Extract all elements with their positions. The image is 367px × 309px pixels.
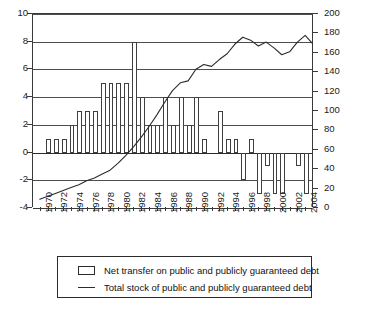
x-axis-label-1980: 1980 [122, 192, 132, 213]
chart-container: 1086420-2-4 200180160140120100806040200 … [0, 0, 367, 309]
right-tickmark-100 [313, 110, 318, 111]
legend-item-net-transfer: Net transfer on public and publicly guar… [58, 262, 311, 279]
x-axis-label-1972: 1972 [59, 192, 69, 213]
legend-item-total-stock: Total stock of public and publicly guara… [58, 279, 311, 296]
line-series [32, 13, 313, 207]
x-tickmark-1994 [227, 207, 228, 211]
x-tickmark-2000 [274, 207, 275, 211]
x-axis-label-1976: 1976 [91, 192, 101, 213]
right-tickmark-140 [313, 71, 318, 72]
right-tickmark-180 [313, 32, 318, 33]
right-tickmark-40 [313, 168, 318, 169]
right-axis-label-180: 180 [324, 27, 340, 37]
x-tickmark-1998 [258, 207, 259, 211]
x-axis-label-2004: 2004 [309, 192, 319, 213]
x-axis-label-1984: 1984 [153, 192, 163, 213]
x-tickmark-1974 [71, 207, 72, 211]
x-tickmark-1970 [40, 207, 41, 211]
legend-label-total-stock: Total stock of public and publicly guara… [104, 282, 312, 293]
right-tickmark-80 [313, 129, 318, 130]
x-tickmark-1982 [133, 207, 134, 211]
x-axis-label-2000: 2000 [278, 192, 288, 213]
left-axis-label-6: 6 [23, 63, 28, 73]
legend-line-marker-icon [78, 287, 95, 288]
x-axis-label-1998: 1998 [262, 192, 272, 213]
right-axis-label-20: 20 [324, 183, 335, 193]
left-axis-label-2: 2 [23, 119, 28, 129]
x-axis-label-1982: 1982 [137, 192, 147, 213]
x-tickmark-1976 [87, 207, 88, 211]
x-axis-label-1990: 1990 [200, 192, 210, 213]
left-axis-label-0: 0 [23, 147, 28, 157]
x-tickmark-2002 [290, 207, 291, 211]
x-tickmark-1990 [196, 207, 197, 211]
right-tickmark-120 [313, 91, 318, 92]
x-axis-label-1986: 1986 [169, 192, 179, 213]
right-tickmark-20 [313, 188, 318, 189]
left-axis-label-10: 10 [17, 8, 28, 18]
left-axis-label-8: 8 [23, 36, 28, 46]
x-tickmark-1986 [165, 207, 166, 211]
x-tickmark-1972 [55, 207, 56, 211]
x-axis-label-1994: 1994 [231, 192, 241, 213]
right-axis-label-60: 60 [324, 144, 335, 154]
x-axis-label-1988: 1988 [184, 192, 194, 213]
legend-label-net-transfer: Net transfer on public and publicly guar… [104, 265, 319, 276]
left-axis-label-4: 4 [23, 91, 28, 101]
chart-legend: Net transfer on public and publicly guar… [57, 256, 312, 298]
right-axis-label-100: 100 [324, 105, 340, 115]
x-tickmark-1996 [243, 207, 244, 211]
right-axis-label-120: 120 [324, 86, 340, 96]
x-tickmark-1980 [118, 207, 119, 211]
x-axis-label-1992: 1992 [216, 192, 226, 213]
right-tickmark-160 [313, 52, 318, 53]
x-tickmark-1984 [149, 207, 150, 211]
x-tickmark-1992 [212, 207, 213, 211]
right-axis-label-160: 160 [324, 47, 340, 57]
x-axis-label-1978: 1978 [106, 192, 116, 213]
x-axis-label-2002: 2002 [294, 192, 304, 213]
x-axis-label-1996: 1996 [247, 192, 257, 213]
right-axis-label-0: 0 [324, 202, 329, 212]
left-axis-label--4: -4 [20, 202, 28, 212]
x-axis-label-1974: 1974 [75, 192, 85, 213]
x-axis-label-1970: 1970 [44, 192, 54, 213]
right-tickmark-60 [313, 149, 318, 150]
x-tickmark-1978 [102, 207, 103, 211]
right-axis-label-80: 80 [324, 124, 335, 134]
legend-box-marker-icon [78, 266, 95, 275]
total-stock-line [40, 35, 313, 199]
x-tickmark-1988 [180, 207, 181, 211]
right-axis-label-200: 200 [324, 8, 340, 18]
x-tickmark-2004 [305, 207, 306, 211]
right-axis-label-140: 140 [324, 66, 340, 76]
right-tickmark-200 [313, 13, 318, 14]
left-axis-label--2: -2 [20, 174, 28, 184]
right-axis-label-40: 40 [324, 163, 335, 173]
